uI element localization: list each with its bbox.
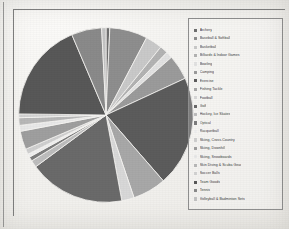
legend-item[interactable]: Fishing Tackle	[194, 85, 278, 93]
legend-item[interactable]: Racquetball	[194, 127, 278, 135]
pie-chart-svg	[16, 22, 196, 208]
legend-swatch-icon	[194, 130, 197, 133]
legend-item[interactable]: Camping	[194, 68, 278, 76]
legend-item[interactable]: Skiing, Downhill	[194, 144, 278, 152]
legend-swatch-icon	[194, 164, 197, 167]
pie-slice-group	[19, 28, 194, 203]
legend-swatch-icon	[194, 54, 197, 57]
legend-swatch-icon	[194, 113, 197, 116]
legend-swatch-icon	[194, 105, 197, 108]
legend-swatch-icon	[194, 121, 197, 124]
page-frame-left-rule	[13, 9, 14, 216]
legend-swatch-icon	[194, 62, 197, 65]
legend-swatch-icon	[194, 46, 197, 49]
legend-swatch-icon	[194, 189, 197, 192]
legend-item[interactable]: Volleyball & Badminton Sets	[194, 195, 278, 203]
legend-item[interactable]: Tennis	[194, 186, 278, 194]
legend-swatch-icon	[194, 181, 197, 184]
legend-swatch-icon	[194, 147, 197, 150]
legend-swatch-icon	[194, 29, 197, 32]
page-frame-top-rule	[13, 9, 285, 10]
legend-swatch-icon	[194, 138, 197, 141]
pie-chart	[16, 22, 196, 208]
legend-swatch-icon	[194, 79, 197, 82]
legend-swatch-icon	[194, 96, 197, 99]
legend-swatch-icon	[194, 71, 197, 74]
page-margin-rule-outer	[3, 2, 4, 227]
pie-chart-canvas	[16, 22, 196, 208]
document-page: ArcheryBaseball & SoftballBasketballBill…	[0, 0, 289, 229]
legend-item-label: Volleyball & Badminton Sets	[200, 194, 245, 203]
legend-item[interactable]: Football	[194, 94, 278, 102]
legend-swatch-icon	[194, 88, 197, 91]
legend-swatch-icon	[194, 155, 197, 158]
chart-legend: ArcheryBaseball & SoftballBasketballBill…	[188, 18, 283, 210]
legend-list: ArcheryBaseball & SoftballBasketballBill…	[194, 26, 278, 203]
legend-swatch-icon	[194, 197, 197, 200]
legend-item[interactable]: Billiards & Indoor Games	[194, 51, 278, 59]
legend-swatch-icon	[194, 37, 197, 40]
legend-swatch-icon	[194, 172, 197, 175]
